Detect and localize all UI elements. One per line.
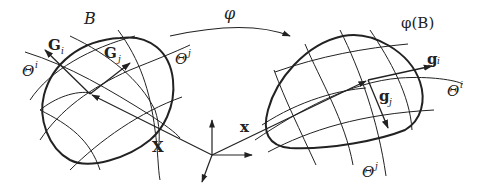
label-theta-i-right: Θ i bbox=[447, 80, 463, 100]
label-G-i: G i bbox=[48, 36, 64, 56]
label-B: B bbox=[83, 9, 96, 28]
svg-text:Θ: Θ bbox=[175, 50, 187, 68]
svg-text:Θ: Θ bbox=[22, 62, 34, 80]
theta-i-line bbox=[25, 52, 180, 138]
theta-j-line bbox=[370, 30, 412, 130]
vector-G-j bbox=[90, 63, 130, 94]
theta-j-line bbox=[40, 92, 92, 110]
theta-i-line bbox=[255, 77, 463, 140]
label-theta-j-right: Θ j bbox=[362, 161, 378, 181]
label-phi-B: φ(B) bbox=[401, 14, 434, 32]
label-g-j: g j bbox=[379, 87, 392, 107]
label-theta-i-left: Θ i bbox=[22, 60, 38, 80]
current-body bbox=[212, 30, 463, 176]
theta-j-line bbox=[70, 97, 182, 170]
label-phi: φ bbox=[224, 4, 236, 23]
label-G-j: G j bbox=[104, 44, 121, 64]
svg-text:Θ: Θ bbox=[447, 82, 459, 100]
svg-text:Θ: Θ bbox=[362, 163, 374, 181]
svg-text:i: i bbox=[61, 46, 64, 56]
label-g-i: g i bbox=[427, 50, 440, 68]
deformation-mapping-diagram: B G i G j Θ i Θ j X φ φ(B) x g i g j Θ i… bbox=[0, 0, 486, 193]
label-X: X bbox=[152, 138, 164, 156]
axis-down bbox=[202, 155, 212, 182]
theta-i-line bbox=[118, 30, 160, 180]
position-vector-x bbox=[212, 81, 366, 155]
label-x: x bbox=[240, 118, 250, 136]
svg-text:G: G bbox=[104, 44, 117, 62]
svg-text:i: i bbox=[460, 80, 463, 90]
svg-text:G: G bbox=[48, 36, 61, 54]
mapping-arrow bbox=[170, 27, 290, 36]
theta-i-line bbox=[275, 44, 408, 72]
svg-text:i: i bbox=[437, 56, 440, 66]
svg-text:i: i bbox=[35, 60, 38, 70]
label-theta-j-left: Θ j bbox=[175, 48, 191, 68]
